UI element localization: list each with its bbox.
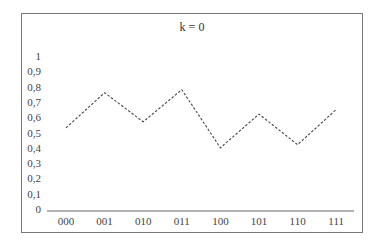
chart-title: k = 0 bbox=[180, 20, 205, 34]
x-tick-label: 110 bbox=[290, 215, 307, 227]
y-tick-label: 0,8 bbox=[27, 81, 41, 93]
y-tick-label: 0,7 bbox=[27, 96, 41, 108]
y-tick-label: 0,3 bbox=[27, 157, 41, 169]
x-tick-label: 010 bbox=[135, 215, 152, 227]
data-line-k0 bbox=[66, 90, 336, 148]
y-tick-label: 0,1 bbox=[27, 188, 41, 200]
line-chart: k = 0 00,10,20,30,40,50,60,70,80,91 0000… bbox=[0, 0, 383, 250]
y-tick-label: 0,9 bbox=[27, 65, 41, 77]
y-tick-label: 0,2 bbox=[27, 172, 41, 184]
x-tick-label: 000 bbox=[58, 215, 75, 227]
x-tick-label: 101 bbox=[251, 215, 268, 227]
x-tick-label: 111 bbox=[328, 215, 344, 227]
x-tick-label: 001 bbox=[96, 215, 113, 227]
y-tick-label: 1 bbox=[36, 50, 42, 62]
y-tick-label: 0,6 bbox=[27, 111, 41, 123]
x-tick-label: 011 bbox=[174, 215, 190, 227]
x-axis-tick-labels: 000001010011100101110111 bbox=[58, 215, 344, 227]
y-tick-label: 0,4 bbox=[27, 142, 41, 154]
y-axis-tick-labels: 00,10,20,30,40,50,60,70,80,91 bbox=[27, 50, 41, 215]
y-tick-label: 0 bbox=[36, 203, 42, 215]
x-tick-label: 100 bbox=[212, 215, 229, 227]
y-tick-label: 0,5 bbox=[27, 127, 41, 139]
